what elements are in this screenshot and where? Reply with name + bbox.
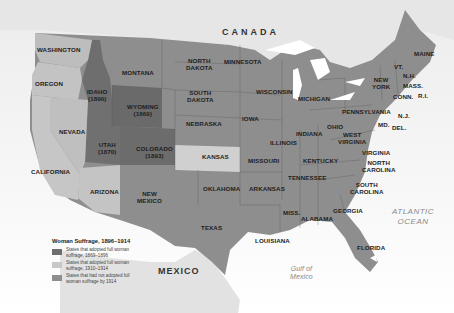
legend-title: Woman Suffrage, 1896–1914 — [52, 238, 152, 244]
state-label-minnesota: MINNESOTA — [224, 58, 262, 65]
state-label-kentucky: KENTUCKY — [303, 157, 338, 164]
atlantic-ocean-label: ATLANTIC OCEAN — [392, 207, 434, 227]
legend-swatch-light — [52, 262, 62, 268]
state-label-tennessee: TENNESSEE — [288, 174, 326, 181]
state-label-florida: FLORIDA — [357, 244, 385, 251]
state-label-new-york: NEWYORK — [372, 76, 390, 90]
state-label-connecticut: CONN. — [393, 93, 413, 100]
state-label-mississippi: MISS. — [283, 209, 300, 216]
state-label-kansas: KANSAS — [202, 153, 229, 160]
state-label-colorado: COLORADO(1893) — [136, 145, 173, 159]
state-label-west-virginia: WESTVIRGINIA — [338, 131, 366, 145]
state-label-delaware: DEL. — [392, 124, 407, 131]
legend-swatch-dark — [52, 249, 62, 255]
state-label-arizona: ARIZONA — [90, 188, 119, 195]
state-label-wisconsin: WISCONSIN — [256, 88, 293, 95]
state-label-iowa: IOWA — [242, 115, 259, 122]
state-label-south-carolina: SOUTHCAROLINA — [350, 181, 383, 195]
state-label-georgia: GEORGIA — [333, 207, 363, 214]
state-label-missouri: MISSOURI — [248, 157, 279, 164]
canada-label: CANADA — [222, 29, 279, 36]
state-label-montana: MONTANA — [122, 69, 154, 76]
state-label-ohio: OHIO — [327, 123, 343, 130]
state-label-nebraska: NEBRASKA — [186, 120, 222, 127]
legend-swatch-medium — [52, 275, 62, 281]
state-label-michigan: MICHIGAN — [298, 95, 330, 102]
state-label-washington: WASHINGTON — [37, 46, 81, 53]
state-label-california: CALIFORNIA — [31, 168, 70, 175]
state-label-nevada: NEVADA — [59, 128, 85, 135]
legend-item-not-adopted: States that had not adopted full woman s… — [52, 273, 152, 284]
us-woman-suffrage-map: CANADA MEXICO Gulf of Mexico ATLANTIC OC… — [0, 0, 454, 313]
state-label-idaho: IDAHO(1896) — [87, 88, 107, 102]
state-label-texas: TEXAS — [201, 224, 222, 231]
state-label-illinois: ILLINOIS — [270, 139, 297, 146]
state-label-vermont: VT. — [394, 63, 403, 70]
state-label-oklahoma: OKLAHOMA — [203, 185, 240, 192]
state-label-indiana: INDIANA — [296, 130, 322, 137]
state-label-maine: MAINE — [414, 50, 434, 57]
state-label-north-dakota: NORTHDAKOTA — [186, 57, 213, 71]
state-label-rhode-island: R.I. — [418, 92, 428, 99]
map-legend: Woman Suffrage, 1896–1914 States that ad… — [52, 238, 152, 286]
state-label-virginia: VIRGINIA — [362, 149, 390, 156]
legend-item-1910-1914: States that adopted full woman suffrage,… — [52, 260, 152, 271]
state-label-oregon: OREGON — [35, 80, 63, 87]
state-label-utah: UTAH(1870) — [98, 141, 117, 155]
state-label-south-dakota: SOUTHDAKOTA — [187, 89, 214, 103]
state-label-maryland: MD. — [378, 121, 390, 128]
state-label-new-hampshire: N.H. — [403, 72, 416, 79]
state-label-new-mexico: NEWMEXICO — [137, 190, 162, 204]
state-label-north-carolina: NORTHCAROLINA — [362, 159, 395, 173]
legend-item-1869-1896: States that adopted full woman suffrage,… — [52, 247, 152, 258]
state-label-massachusetts: MASS. — [403, 82, 423, 89]
state-label-new-jersey: N.J. — [398, 112, 410, 119]
state-label-louisiana: LOUISIANA — [255, 237, 290, 244]
state-label-pennsylvania: PENNSYLVANIA — [342, 108, 391, 115]
state-label-wyoming: WYOMING(1869) — [127, 103, 159, 117]
gulf-of-mexico-label: Gulf of Mexico — [290, 265, 313, 281]
mexico-label: MEXICO — [158, 268, 200, 275]
state-label-alabama: ALABAMA — [301, 215, 333, 222]
state-label-arkansas: ARKANSAS — [249, 185, 285, 192]
